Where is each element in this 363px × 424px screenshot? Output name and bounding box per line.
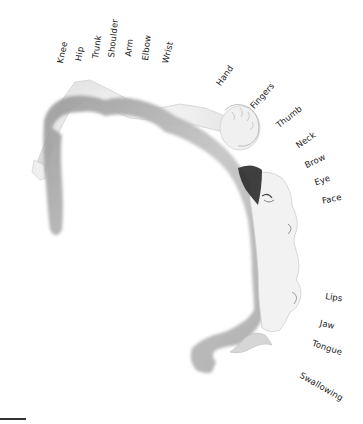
scale-bar: [0, 418, 26, 420]
hand: [220, 104, 260, 150]
face: [238, 165, 301, 331]
label-arm: Arm: [123, 38, 135, 57]
leg-and-torso: [32, 80, 245, 180]
homunculus-illustration: [0, 0, 363, 424]
homunculus-diagram: Knee Hip Trunk Shoulder Arm Elbow Wrist …: [0, 0, 363, 424]
